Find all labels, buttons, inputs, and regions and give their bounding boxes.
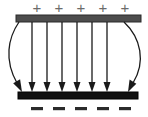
field-line-5 [89,22,96,92]
arrowhead-icon [13,79,22,92]
positive-plate [16,15,141,22]
minus-sign-3 [75,107,87,110]
field-line-6 [104,22,111,92]
positive-charge-group: + + + + + [33,0,130,16]
minus-sign-2 [53,107,65,110]
capacitor-field-figure: + + + + + [0,0,148,117]
plus-sign-1: + [33,0,42,16]
minus-sign-5 [119,107,131,110]
electric-field-diagram: + + + + + [0,0,148,117]
arrowhead-icon [128,80,136,93]
plus-sign-3: + [77,0,86,16]
field-line-3 [59,22,66,92]
minus-sign-1 [31,107,43,110]
arrowhead-icon [59,82,66,92]
arrowhead-icon [74,82,81,92]
left-fringe-line [9,22,22,92]
plus-sign-5: + [121,0,130,16]
arrowhead-icon [89,82,96,92]
negative-charge-group [31,107,131,110]
field-line-1 [29,22,36,92]
arrowhead-icon [104,82,111,92]
right-fringe-line [124,22,140,92]
negative-plate [18,92,138,99]
fringe-line-shaft [124,22,140,83]
plus-sign-4: + [99,0,108,16]
field-line-2 [44,22,51,92]
fringe-line-shaft [9,22,19,83]
arrowhead-icon [44,82,51,92]
field-line-group [9,22,140,92]
field-line-4 [74,22,81,92]
minus-sign-4 [97,107,109,110]
arrowhead-icon [29,82,36,92]
plus-sign-2: + [55,0,64,16]
